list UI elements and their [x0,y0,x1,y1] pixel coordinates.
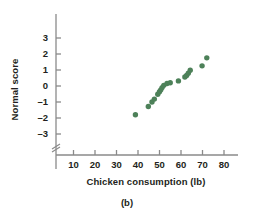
x-tick-label: 30 [111,159,122,170]
x-tick-label: 20 [90,159,101,170]
x-tick-label: 70 [197,159,208,170]
y-axis-label: Normal score [9,50,20,130]
data-point [133,112,138,117]
x-tick-label: 80 [219,159,230,170]
y-tick-label: 3 [43,32,48,43]
y-tick-label: –2 [37,112,48,123]
data-point [146,104,151,109]
y-tick-label: 1 [43,64,49,75]
data-series [133,55,210,117]
figure-caption: (b) [0,197,254,208]
x-tick-label: 60 [176,159,187,170]
data-point [188,68,193,73]
data-point [176,78,181,83]
x-tick-label: 40 [133,159,144,170]
data-point [168,80,173,85]
figure-panel-b: –3–2–101231020304050607080 Normal score … [0,0,254,216]
y-tick-label: 0 [43,80,48,91]
y-tick-label: –3 [37,128,48,139]
x-axis-label: Chicken consumption (lb) [56,176,236,187]
data-point [204,55,209,60]
x-tick-label: 10 [68,159,79,170]
data-point [199,63,204,68]
x-tick-label: 50 [154,159,165,170]
data-point [152,96,157,101]
y-tick-label: –1 [37,96,48,107]
y-tick-label: 2 [43,48,48,59]
